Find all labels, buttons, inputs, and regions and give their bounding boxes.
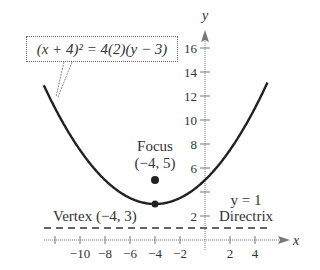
vertex-point [152, 201, 159, 208]
y-axis-label: y [200, 8, 209, 23]
focus-coords: (−4, 5) [135, 155, 176, 172]
vertex-label: Vertex (−4, 3) [53, 208, 137, 225]
focus-point [151, 176, 159, 184]
callout-pointer [56, 62, 72, 97]
y-tick-label: 2 [191, 209, 198, 224]
equation-text: (x + 4)² = 4(2)(y − 3) [37, 41, 168, 57]
x-axis-label: x [292, 233, 300, 248]
equation-callout: (x + 4)² = 4(2)(y − 3) [26, 36, 178, 62]
directrix-equation: y = 1 [231, 192, 262, 208]
x-tick-label: 2 [227, 246, 234, 261]
y-axis: 26810121416 [184, 30, 210, 250]
x-tick-label: −8 [98, 246, 112, 261]
y-tick-label: 16 [184, 41, 198, 56]
y-tick-label: 6 [191, 161, 198, 176]
y-tick-label: 12 [184, 89, 197, 104]
x-tick-label: −2 [173, 246, 187, 261]
y-tick-label: 10 [184, 113, 197, 128]
y-ticks: 26810121416 [184, 41, 210, 224]
x-tick-label: −10 [70, 246, 90, 261]
y-tick-label: 14 [184, 65, 198, 80]
focus-title: Focus [137, 138, 173, 154]
x-tick-label: 4 [252, 246, 259, 261]
directrix-label: Directrix [219, 208, 274, 224]
x-tick-label: −6 [123, 246, 137, 261]
x-axis: −10−8−6−4−224 [44, 236, 290, 261]
x-tick-label: −4 [148, 246, 162, 261]
y-tick-label: 8 [191, 137, 198, 152]
